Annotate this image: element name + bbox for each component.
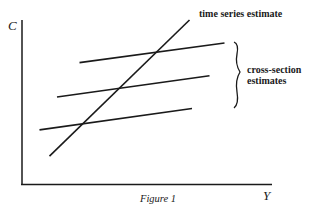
time-series-label: time series estimate (199, 8, 283, 19)
figure-diagram: C Y Figure 1 time series estimate cross-… (0, 0, 310, 216)
x-axis-label: Y (263, 188, 272, 203)
curly-brace (234, 42, 240, 108)
cross-section-label-line2: estimates (247, 75, 287, 86)
cross-section-line-1 (80, 43, 225, 63)
cross-section-label-line1: cross-section (247, 64, 302, 75)
y-axis-label: C (8, 18, 17, 33)
cross-section-line-2 (57, 76, 210, 97)
figure-caption: Figure 1 (139, 193, 176, 204)
cross-section-line-3 (40, 109, 193, 130)
